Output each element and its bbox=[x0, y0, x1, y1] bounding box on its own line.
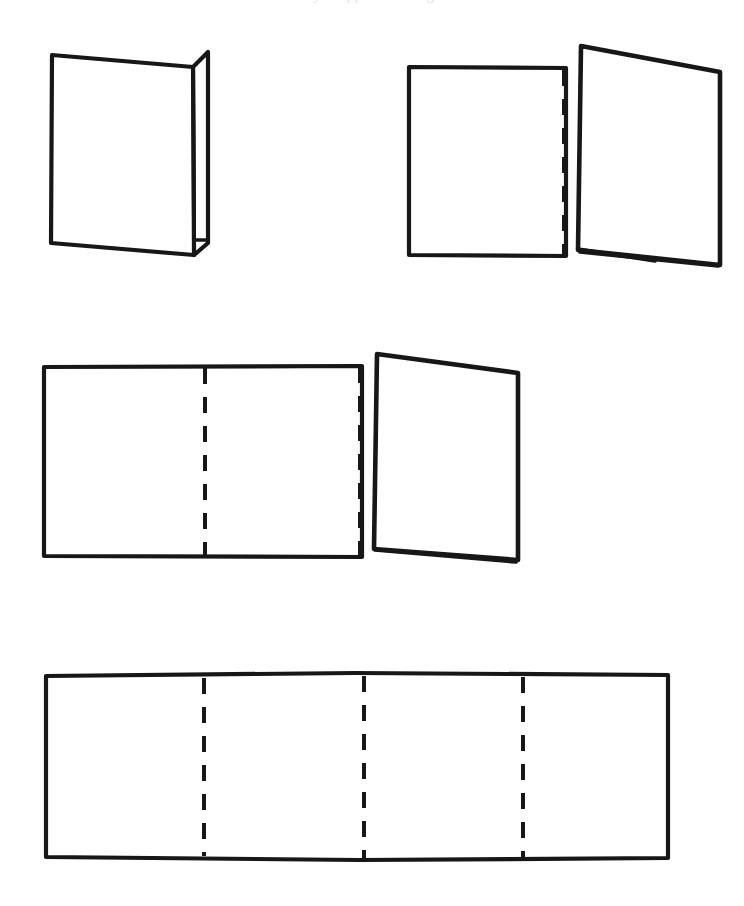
figure-3-mostly-open-two-creases bbox=[44, 354, 518, 562]
figures-canvas bbox=[0, 0, 744, 906]
figure-3-lifted-flap bbox=[374, 354, 518, 560]
figure-1-folded-closed-booklet bbox=[51, 52, 208, 255]
figure-2-half-open-one-crease bbox=[409, 46, 720, 266]
figure-4-fully-unfolded bbox=[46, 673, 668, 860]
figure-1-front-panel bbox=[51, 55, 194, 255]
figure-2-flat-panel bbox=[409, 67, 566, 256]
figure-1-spine-edge bbox=[193, 67, 194, 255]
diagram-page: nearly cropped heading line bbox=[0, 0, 744, 906]
figure-2-lifted-flap bbox=[578, 46, 720, 265]
figure-4-outline bbox=[46, 673, 668, 860]
